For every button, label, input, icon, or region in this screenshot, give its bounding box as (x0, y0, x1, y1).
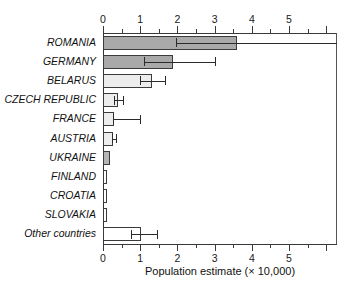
bar (103, 208, 107, 222)
axis-tick-top-2 (177, 26, 178, 33)
error-bar-cap-high (215, 57, 216, 66)
x-axis-title: Population estimate (× 10,000) (103, 265, 337, 277)
error-bar-cap-low (112, 134, 113, 143)
axis-minor-tick-top (233, 29, 234, 33)
bar-category-label: CROATIA (50, 189, 96, 201)
error-bar-cap-high (140, 115, 141, 124)
axis-minor-tick-bot (233, 244, 234, 248)
bar-category-label: ROMANIA (47, 36, 96, 48)
error-bar (114, 100, 123, 101)
axis-tick-top-6 (326, 26, 327, 33)
bar-category-label: BELARUS (47, 74, 96, 86)
error-bar-cap-high (165, 76, 166, 85)
axis-minor-tick-top (159, 29, 160, 33)
error-bar (113, 119, 140, 120)
axis-tick-bot-1 (140, 244, 141, 251)
error-bar (144, 62, 215, 63)
axis-minor-tick-top (270, 29, 271, 33)
axis-minor-tick-top (308, 29, 309, 33)
axis-tick-label-top-2: 2 (165, 13, 189, 25)
bar-category-label: AUSTRIA (50, 132, 96, 144)
axis-tick-label-bot-3: 3 (203, 252, 227, 264)
bottom-axis-line (103, 244, 337, 245)
axis-tick-bot-2 (177, 244, 178, 251)
axis-tick-label-top-0: 0 (91, 13, 115, 25)
axis-tick-bot-0 (103, 244, 104, 251)
error-bar-cap-low (140, 76, 141, 85)
axis-tick-top-5 (289, 26, 290, 33)
axis-tick-label-top-5: 5 (277, 13, 301, 25)
axis-tick-bot-6 (326, 244, 327, 251)
axis-tick-bot-5 (289, 244, 290, 251)
axis-tick-top-0 (103, 26, 104, 33)
bar-category-label: SLOVAKIA (45, 208, 96, 220)
error-bar-cap-high (116, 134, 117, 143)
bar-category-label: UKRAINE (49, 151, 96, 163)
bar-category-label: Other countries (24, 227, 96, 239)
error-bar-cap-low (113, 115, 114, 124)
bar (103, 189, 107, 203)
axis-tick-bot-3 (215, 244, 216, 251)
axis-tick-label-top-1: 1 (128, 13, 152, 25)
axis-tick-top-3 (215, 26, 216, 33)
bar (103, 151, 110, 165)
axis-minor-tick-bot (270, 244, 271, 248)
axis-minor-tick-bot (122, 244, 123, 248)
axis-minor-tick-top (196, 29, 197, 33)
axis-tick-bot-4 (252, 244, 253, 251)
axis-minor-tick-bot (196, 244, 197, 248)
axis-minor-tick-bot (308, 244, 309, 248)
error-bar-cap-high (123, 96, 124, 105)
bar-category-label: CZECH REPUBLIC (4, 93, 96, 105)
error-bar (140, 81, 165, 82)
population-estimate-bar-chart: 001122334455 ROMANIAGERMANYBELARUSCZECH … (0, 0, 355, 285)
error-bar-cap-low (144, 57, 145, 66)
axis-tick-label-top-4: 4 (240, 13, 264, 25)
error-bar-cap-low (176, 38, 177, 47)
error-bar (176, 43, 337, 44)
axis-tick-label-top-3: 3 (203, 13, 227, 25)
axis-minor-tick-bot (159, 244, 160, 248)
axis-tick-top-4 (252, 26, 253, 33)
axis-tick-label-bot-2: 2 (165, 252, 189, 264)
error-bar (131, 234, 157, 235)
bar (103, 170, 107, 184)
bar-category-label: FRANCE (53, 112, 96, 124)
error-bar-cap-low (131, 230, 132, 239)
bar-category-label: FINLAND (51, 170, 96, 182)
axis-tick-top-1 (140, 26, 141, 33)
axis-tick-label-bot-0: 0 (91, 252, 115, 264)
axis-minor-tick-top (122, 29, 123, 33)
axis-tick-label-bot-4: 4 (240, 252, 264, 264)
bar-category-label: GERMANY (43, 55, 96, 67)
error-bar-cap-low (114, 96, 115, 105)
error-bar-cap-high (157, 230, 158, 239)
axis-tick-label-bot-1: 1 (128, 252, 152, 264)
axis-tick-label-bot-5: 5 (277, 252, 301, 264)
